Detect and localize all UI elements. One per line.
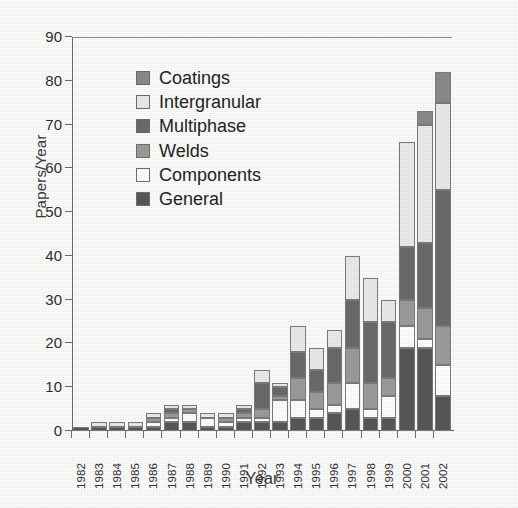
bar: [417, 111, 433, 431]
x-tick-mark: [361, 430, 362, 438]
bar-segment: [399, 142, 415, 247]
legend-item-general[interactable]: General: [136, 187, 316, 211]
x-tick-label: 1985: [129, 444, 141, 508]
x-tick-label: 1992: [256, 444, 268, 508]
bar: [128, 422, 144, 431]
bar-segment: [272, 396, 288, 400]
bar: [200, 413, 216, 431]
y-tick-mark: [65, 124, 72, 125]
bar-segment: [164, 422, 180, 431]
y-tick-mark: [65, 80, 72, 81]
bar-segment: [399, 348, 415, 431]
bar: [164, 405, 180, 431]
bar-segment: [417, 243, 433, 309]
bar-segment: [146, 427, 162, 431]
x-tick-mark: [433, 430, 434, 438]
bar-segment: [435, 72, 451, 103]
bar-segment: [236, 409, 252, 413]
bar: [435, 72, 451, 431]
x-tick-mark: [143, 430, 144, 438]
bar-segment: [290, 400, 306, 418]
x-tick-mark: [198, 430, 199, 438]
legend-item-multiphase[interactable]: Multiphase: [136, 114, 316, 138]
bar-segment: [254, 422, 270, 431]
legend-swatch-icon: [136, 192, 150, 206]
bar-segment: [254, 370, 270, 383]
bar-segment: [272, 383, 288, 387]
bar-segment: [381, 396, 397, 418]
bar-segment: [290, 418, 306, 431]
y-tick-label: 60: [45, 158, 62, 177]
y-tick-mark: [65, 386, 72, 387]
x-tick-mark: [415, 430, 416, 438]
y-tick-label: 70: [45, 115, 62, 134]
x-tick-label: 1999: [383, 444, 395, 508]
bar-segment: [309, 418, 325, 431]
bar-segment: [91, 422, 107, 426]
bar-segment: [146, 413, 162, 417]
bar-segment: [236, 413, 252, 417]
legend-item-components[interactable]: Components: [136, 163, 316, 187]
bar-segment: [345, 348, 361, 383]
y-tick-label: 10: [45, 377, 62, 396]
bar: [327, 330, 343, 431]
bar-segment: [146, 422, 162, 426]
bar-segment: [417, 339, 433, 348]
bar-segment: [309, 348, 325, 370]
bar-segment: [91, 427, 107, 431]
bar-segment: [417, 111, 433, 124]
bar: [309, 348, 325, 431]
legend-item-intergranular[interactable]: Intergranular: [136, 90, 316, 114]
bar-segment: [182, 405, 198, 409]
x-tick-label: 1982: [75, 444, 87, 508]
x-tick-mark: [216, 430, 217, 438]
x-tick-label: 1994: [292, 444, 304, 508]
bar-segment: [200, 427, 216, 431]
bar-segment: [254, 383, 270, 409]
bar-segment: [218, 422, 234, 426]
legend-item-coatings[interactable]: Coatings: [136, 66, 316, 90]
legend-swatch-icon: [136, 71, 150, 85]
bar: [73, 427, 89, 431]
x-tick-label: 1990: [220, 444, 232, 508]
bar-segment: [218, 427, 234, 431]
y-tick-mark: [65, 167, 72, 168]
bar-segment: [435, 326, 451, 365]
x-tick-label: 1996: [328, 444, 340, 508]
bar-segment: [236, 405, 252, 409]
bar: [218, 413, 234, 431]
bar-segment: [327, 413, 343, 431]
bar-segment: [399, 300, 415, 326]
x-tick-label: 1983: [93, 444, 105, 508]
bar-segment: [399, 247, 415, 300]
legend-item-welds[interactable]: Welds: [136, 139, 316, 163]
bar: [91, 422, 107, 431]
bar-segment: [128, 427, 144, 431]
legend-item-label: Intergranular: [159, 92, 261, 112]
bar-segment: [164, 405, 180, 409]
bar: [381, 300, 397, 431]
x-tick-mark: [379, 430, 380, 438]
bar-segment: [290, 352, 306, 378]
bar: [182, 405, 198, 431]
x-tick-mark: [288, 430, 289, 438]
bar-segment: [363, 383, 379, 409]
bar-segment: [236, 418, 252, 422]
bar-segment: [417, 348, 433, 431]
bar-segment: [363, 278, 379, 322]
x-tick-mark: [125, 430, 126, 438]
bar: [109, 422, 125, 431]
y-tick-label: 30: [45, 290, 62, 309]
legend-item-label: General: [159, 189, 223, 209]
legend-swatch-icon: [136, 168, 150, 182]
x-tick-label: 1991: [238, 444, 250, 508]
bar-segment: [182, 422, 198, 431]
x-tick-mark: [161, 430, 162, 438]
bar-segment: [363, 418, 379, 431]
bar-segment: [309, 370, 325, 392]
bar-segment: [345, 300, 361, 348]
bar-segment: [327, 383, 343, 405]
x-tick-mark: [270, 430, 271, 438]
bar-segment: [309, 409, 325, 418]
x-tick-label: 2000: [401, 444, 413, 508]
